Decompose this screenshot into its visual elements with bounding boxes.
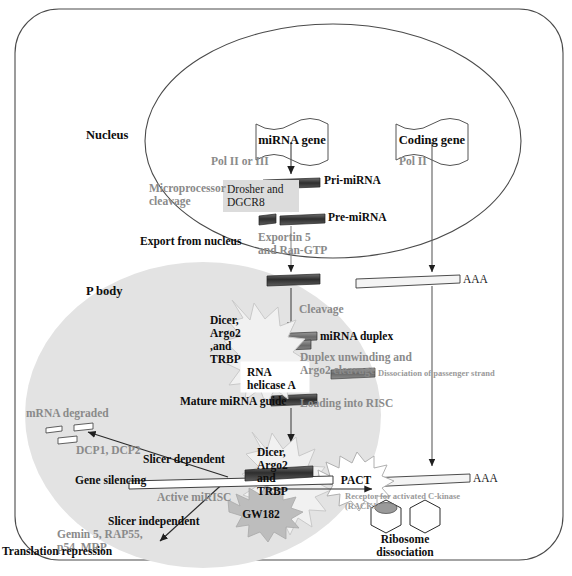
export-from-nucleus-label: Export from nucleus bbox=[140, 235, 241, 248]
p-body-label: P body bbox=[86, 284, 122, 298]
pre-mirna-cytoplasmic bbox=[267, 274, 320, 286]
dicer-complex-lower-label: Dicer, Argo2 and TRBP bbox=[257, 446, 309, 498]
rna-helicase-a-label: RNA helicase A bbox=[247, 366, 296, 392]
pri-mirna-label: Pri-miRNA bbox=[324, 174, 381, 187]
dicer-complex-upper-label: Dicer, Argo2 ,and TRBP bbox=[210, 314, 260, 366]
risc-loading-label: Loading into RISC bbox=[300, 397, 393, 410]
mrna-transcript-upper bbox=[356, 275, 460, 288]
exportin-label: Exportin 5 and Ran-GTP bbox=[258, 231, 327, 257]
mirna-gene-label: miRNA gene bbox=[256, 133, 328, 147]
nucleus-label: Nucleus bbox=[86, 128, 128, 142]
cleavage-label: Cleavage bbox=[299, 303, 344, 316]
pre-mirna-label: Pre-miRNA bbox=[328, 211, 387, 224]
slicer-dependent-label: Slicer dependent bbox=[143, 453, 225, 466]
pact-label: PACT bbox=[326, 474, 386, 487]
mrna-tail-upper-label: AAA bbox=[463, 273, 488, 286]
decapping-enzymes-label: DCP1, DCP2 bbox=[76, 444, 141, 457]
drosha-dgcr8-label: Drosher and DGCR8 bbox=[227, 183, 284, 209]
ribosome-dissociation-label: Ribosome dissociation bbox=[356, 533, 454, 559]
mature-mirna-label: Mature miRNA guide bbox=[180, 395, 286, 408]
figure-canvas: Nucleus miRNA gene Coding gene Pol II or… bbox=[0, 0, 572, 576]
rack1-label: Receptor for activated C-kinase (RACK1) bbox=[345, 492, 460, 511]
active-mirisc-label: Active miRISC bbox=[157, 491, 231, 504]
gw182-label: GW182 bbox=[230, 508, 292, 521]
coding-gene-label: Coding gene bbox=[396, 133, 468, 147]
slicer-independent-label: Slicer independent bbox=[108, 515, 199, 528]
passenger-dissociation-label: Dissociation of passenger strand bbox=[378, 369, 495, 379]
coding-polymerase-label: Pol II bbox=[399, 155, 427, 168]
mirna-polymerase-label: Pol II or III bbox=[211, 155, 269, 168]
translation-repression-label: Translation repression bbox=[2, 545, 112, 558]
pre-mirna-molecule bbox=[259, 214, 325, 225]
mrna-tail-lower-label: AAA bbox=[473, 472, 498, 485]
microprocessor-cleavage-label: Microprocessor cleavage bbox=[149, 182, 226, 208]
mirna-duplex-label: miRNA duplex bbox=[320, 330, 393, 343]
mrna-degraded-label: mRNA degraded bbox=[26, 407, 109, 420]
gene-silencing-label: Gene silencing bbox=[75, 474, 146, 487]
